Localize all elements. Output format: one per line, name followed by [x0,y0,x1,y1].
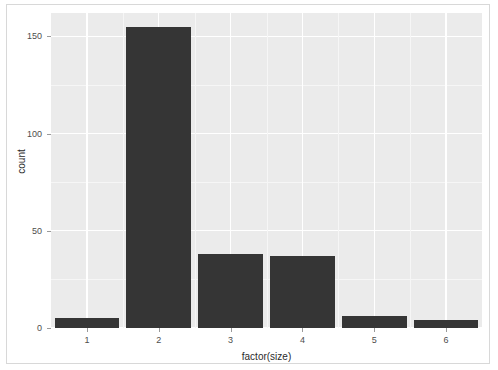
bar-4 [270,256,335,328]
x-tick-mark [374,328,375,332]
y-tick-mark [47,231,51,232]
bar-1 [55,318,120,328]
x-tick-mark [87,328,88,332]
x-tick-label: 3 [211,335,251,345]
gridline-major-vertical [86,13,87,328]
gridline-minor-vertical [410,13,411,328]
bar-5 [342,316,407,328]
gridline-minor-vertical [338,13,339,328]
gridline-minor-vertical [267,13,268,328]
x-tick-mark [446,328,447,332]
x-tick-label: 6 [426,335,466,345]
plot-frame: 050100150 123456 factor(size) count [6,4,490,364]
y-tick-mark [47,36,51,37]
x-tick-label: 2 [139,335,179,345]
x-tick-mark [159,328,160,332]
chart-panel [51,13,482,328]
x-tick-label: 5 [354,335,394,345]
x-tick-mark [231,328,232,332]
gridline-minor-vertical [123,13,124,328]
x-tick-mark [302,328,303,332]
y-tick-label: 0 [37,323,42,333]
y-tick-label: 150 [27,31,42,41]
bar-6 [414,320,479,328]
x-tick-label: 1 [67,335,107,345]
gridline-major-vertical [374,13,375,328]
x-tick-label: 4 [282,335,322,345]
y-tick-mark [47,328,51,329]
bar-3 [198,254,263,328]
y-tick-label: 50 [32,226,42,236]
x-axis-title: factor(size) [51,351,482,362]
y-tick-mark [47,134,51,135]
gridline-major-vertical [445,13,446,328]
plot-area: 050100150 123456 factor(size) count [7,5,489,363]
y-tick-label: 100 [27,129,42,139]
bar-2 [126,27,191,328]
gridline-minor-vertical [195,13,196,328]
y-axis-title: count [16,127,27,197]
